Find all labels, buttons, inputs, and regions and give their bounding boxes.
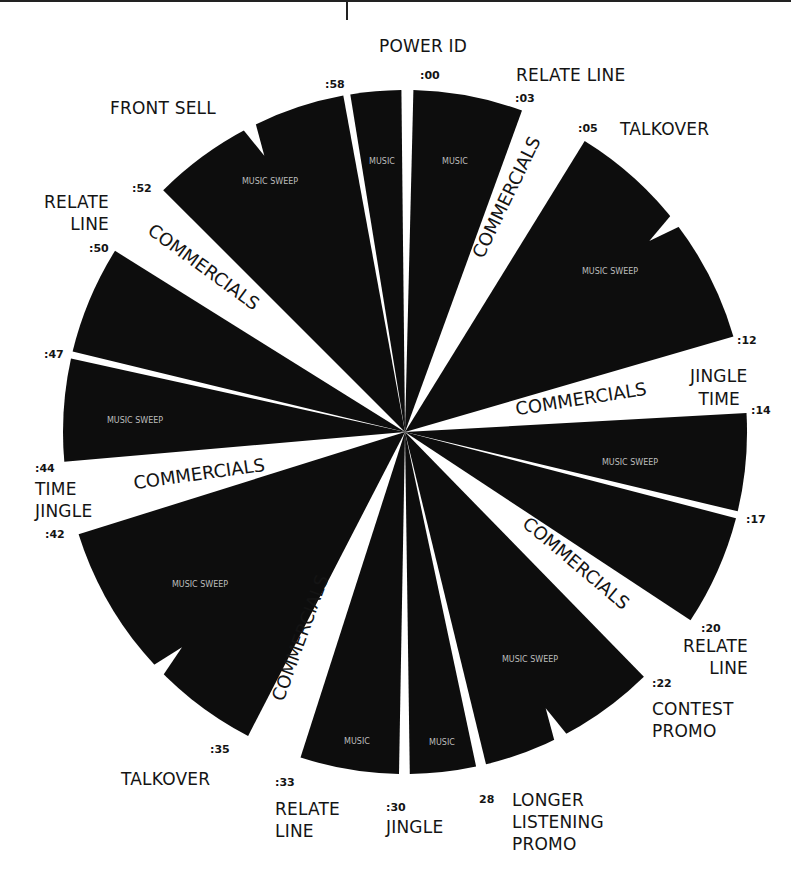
time-44: :44: [35, 462, 55, 475]
time-22: :22: [652, 677, 672, 690]
time-20: :20: [701, 622, 721, 635]
inner-text-05: MUSIC SWEEP: [582, 267, 638, 276]
label-longer-listening-2: LISTENING: [512, 812, 604, 832]
inner-text-58: MUSIC: [369, 157, 395, 166]
label-time-jingle-2: JINGLE: [35, 501, 92, 521]
label-contest-promo-2: PROMO: [652, 721, 717, 741]
inner-text-35: MUSIC SWEEP: [172, 580, 228, 589]
time-14: :14: [751, 404, 771, 417]
label-jingle-30: JINGLE: [386, 817, 443, 837]
label-jingle-time-1: JINGLE: [690, 366, 740, 386]
time-12: :12: [737, 334, 757, 347]
time-05: :05: [578, 122, 598, 135]
inner-text-28: MUSIC: [344, 737, 370, 746]
time-30: :30: [386, 801, 406, 814]
label-relate-line-20-2: LINE: [660, 658, 748, 678]
label-power-id: POWER ID: [379, 36, 467, 56]
label-relate-line-03: RELATE LINE: [516, 65, 625, 85]
time-47: :47: [44, 348, 64, 361]
inner-text-44: MUSIC SWEEP: [107, 416, 163, 425]
hot-clock-figure: COMMERCIALS COMMERCIALS COMMERCIALS COMM…: [0, 0, 791, 885]
inner-text-22: MUSIC SWEEP: [502, 655, 558, 664]
label-front-sell: FRONT SELL: [110, 98, 216, 118]
time-58: :58: [325, 78, 345, 91]
label-longer-listening-3: PROMO: [512, 834, 577, 854]
time-52: :52: [132, 182, 152, 195]
label-relate-line-50-2: LINE: [20, 214, 109, 234]
label-jingle-time-2: TIME: [690, 389, 740, 409]
inner-text-30: MUSIC: [429, 738, 455, 747]
time-33: :33: [275, 776, 295, 789]
time-00: :00: [420, 69, 440, 82]
label-talkover-05: TALKOVER: [620, 119, 709, 139]
time-50: :50: [89, 242, 109, 255]
wedge-group: [63, 90, 747, 774]
inner-text-52: MUSIC SWEEP: [242, 177, 298, 186]
inner-text-14: MUSIC SWEEP: [602, 458, 658, 467]
time-35: :35: [210, 743, 230, 756]
label-relate-line-33-2: LINE: [275, 821, 314, 841]
label-relate-line-33-1: RELATE: [275, 799, 340, 819]
label-relate-line-50-1: RELATE: [20, 192, 109, 212]
label-longer-listening-1: LONGER: [512, 790, 584, 810]
label-time-jingle-1: TIME: [35, 479, 77, 499]
time-17: :17: [746, 513, 766, 526]
time-03: :03: [515, 92, 535, 105]
label-contest-promo-1: CONTEST: [652, 699, 734, 719]
inner-text-00: MUSIC: [442, 157, 468, 166]
label-talkover-35: TALKOVER: [121, 769, 210, 789]
label-relate-line-20-1: RELATE: [660, 636, 748, 656]
time-28: 28: [479, 793, 494, 806]
time-42: :42: [45, 528, 65, 541]
